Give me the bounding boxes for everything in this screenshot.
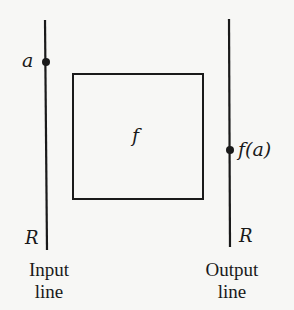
- output-point-label: f(a): [238, 138, 271, 160]
- input-axis-label: R: [25, 227, 39, 248]
- output-caption-line1: Output: [194, 259, 270, 281]
- function-label: f: [132, 124, 139, 146]
- input-line-caption: Input line: [18, 259, 80, 303]
- output-line: [229, 19, 230, 247]
- output-point-dot: [226, 146, 234, 154]
- input-line: [45, 20, 47, 250]
- output-caption-line2: line: [194, 281, 270, 303]
- input-caption-line2: line: [18, 281, 80, 303]
- function-mapping-diagram: a f f(a) R R Input line Output line: [0, 0, 294, 310]
- output-line-caption: Output line: [194, 259, 270, 303]
- input-caption-line1: Input: [18, 259, 80, 281]
- input-point-label: a: [22, 49, 33, 71]
- output-axis-label: R: [239, 225, 253, 246]
- input-point-dot: [42, 58, 50, 66]
